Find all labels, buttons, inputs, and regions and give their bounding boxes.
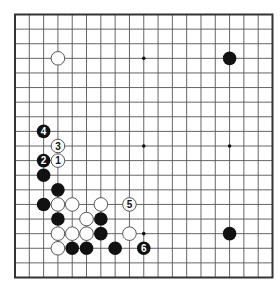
white-stone-move-5: 5 [123,198,137,212]
black-stone-move-4: 4 [37,125,51,139]
black-stone [37,168,51,182]
white-stone-move-3: 3 [51,139,65,153]
star-point [142,57,146,61]
white-stone [123,227,137,241]
move-number-label: 5 [127,199,133,210]
black-stone [65,241,79,255]
white-stone-move-1: 1 [51,154,65,168]
white-stone [51,227,65,241]
move-number-label: 2 [41,155,47,166]
black-stone-move-2: 2 [37,154,51,168]
white-stone [51,198,65,212]
black-stone [37,198,51,212]
white-stone [65,227,79,241]
white-stone [80,227,94,241]
black-stone-move-6: 6 [137,241,151,255]
white-stone [65,198,79,212]
white-stone [51,241,65,255]
star-point [228,144,232,148]
black-stone [94,212,108,226]
black-stone [223,227,237,241]
move-number-label: 4 [41,126,47,137]
white-stone [80,212,94,226]
move-number-label: 6 [141,243,147,254]
black-stone [94,227,108,241]
black-stone [51,212,65,226]
black-stone [108,241,122,255]
black-stone [51,183,65,197]
move-number-label: 1 [55,155,61,166]
go-board: 432156 [0,0,280,291]
move-number-label: 3 [55,141,61,152]
stones: 432156 [37,52,237,256]
star-point [142,232,146,236]
black-stone [223,52,237,66]
white-stone [51,52,65,66]
white-stone [94,198,108,212]
star-point [142,144,146,148]
go-board-diagram: 432156 [0,0,280,291]
black-stone [80,241,94,255]
